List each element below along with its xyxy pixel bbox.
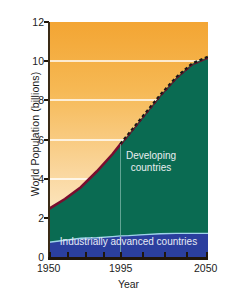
y-tick-label-0: 0 (20, 252, 44, 262)
y-tick-label-6: 6 (20, 135, 44, 145)
population-chart-figure: World Population (billions) 12 10 8 6 4 … (0, 0, 233, 301)
x-tick-mark-2023 (164, 252, 166, 258)
y-axis-tick-group: 12 10 8 6 4 2 0 (18, 0, 44, 301)
developing-countries-label-line1: Developing (96, 150, 206, 162)
developing-countries-label-line1: Developingcountries (96, 150, 206, 174)
y-axis-line (48, 22, 50, 259)
plot-svg (49, 22, 208, 258)
x-tick-mark-2050 (206, 252, 208, 258)
x-tick-mark-1961 (67, 252, 69, 258)
y-tick-label-8: 8 (20, 95, 44, 105)
x-tick-mark-1972 (85, 252, 87, 258)
x-tick-label-1950: 1950 (37, 263, 60, 274)
x-axis-line (48, 257, 208, 260)
x-tick-mark-2009 (142, 252, 144, 258)
y-tick-label-4: 4 (20, 174, 44, 184)
y-tick-label-2: 2 (20, 213, 44, 223)
y-tick-label-10: 10 (20, 56, 44, 66)
x-tick-mark-1950 (49, 252, 51, 258)
x-tick-mark-1984 (103, 252, 105, 258)
x-axis-title: Year (49, 278, 208, 290)
x-tick-mark-2037 (186, 252, 188, 258)
plot-area (49, 22, 208, 258)
x-tick-label-2050: 2050 (194, 263, 217, 274)
x-tick-mark-1995 (120, 252, 122, 258)
y-tick-label-12: 12 (20, 17, 44, 27)
developing-countries-label: Developingcountries (96, 150, 206, 174)
industrial-countries-label: Industrially advanced countries (49, 236, 208, 248)
developing-countries-label-line2: countries (96, 162, 206, 174)
x-tick-label-1995: 1995 (109, 263, 132, 274)
